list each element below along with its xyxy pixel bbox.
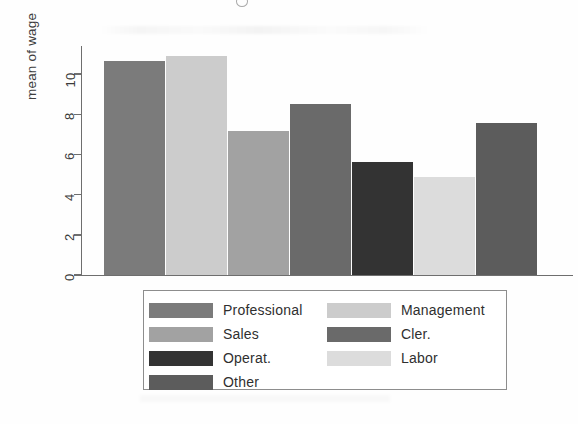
legend-label: Professional: [223, 302, 302, 318]
legend-entry: Professional: [149, 298, 302, 322]
legend-label: Sales: [223, 326, 259, 342]
legend-entry: Other: [149, 370, 302, 394]
x-axis-line: [81, 275, 573, 276]
legend-swatch: [327, 303, 391, 318]
legend-entry: Sales: [149, 322, 302, 346]
legend-entry: Management: [327, 298, 485, 322]
legend-label: Management: [401, 302, 485, 318]
legend-swatch: [327, 351, 391, 366]
legend-label: Cler.: [401, 326, 431, 342]
chart-page: mean of wage 0246810 ProfessionalSalesOp…: [0, 0, 578, 424]
bar-labor: [414, 177, 475, 275]
legend-label: Labor: [401, 350, 438, 366]
legend-swatch: [327, 327, 391, 342]
bar-operat: [352, 162, 413, 275]
legend-label: Operat.: [223, 350, 271, 366]
legend-label: Other: [223, 374, 259, 390]
bar-professional: [104, 61, 165, 275]
bar-management: [166, 56, 227, 275]
legend-swatch: [149, 303, 213, 318]
legend-entry: Cler.: [327, 322, 485, 346]
legend-entry: Operat.: [149, 346, 302, 370]
legend-swatch: [149, 327, 213, 342]
legend-swatch: [149, 351, 213, 366]
chart-legend: ProfessionalSalesOperat.Other Management…: [143, 290, 507, 390]
bar-cler: [290, 104, 351, 275]
legend-column-left: ProfessionalSalesOperat.Other: [149, 298, 302, 394]
legend-swatch: [149, 375, 213, 390]
legend-entry: Labor: [327, 346, 485, 370]
legend-column-right: ManagementCler.Labor: [327, 298, 485, 370]
bar-sales: [228, 131, 289, 275]
bar-other: [476, 123, 537, 275]
bar-series: [0, 46, 578, 275]
